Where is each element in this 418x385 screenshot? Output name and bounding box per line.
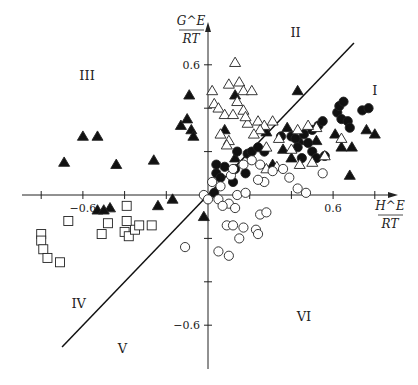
data-point <box>239 160 248 169</box>
data-point <box>293 184 302 193</box>
x-axis-label-denominator: RT <box>381 217 400 231</box>
y-tick-label: 0.6 <box>183 59 201 72</box>
data-point <box>238 105 249 114</box>
data-point <box>152 200 163 209</box>
x-axis-label-numerator: H^E <box>374 199 405 213</box>
data-point <box>228 164 237 173</box>
data-point <box>92 131 103 140</box>
data-point <box>64 217 73 226</box>
data-point <box>346 142 357 151</box>
data-point <box>292 85 303 94</box>
region-label: V <box>117 341 128 356</box>
data-point <box>318 169 327 178</box>
series-triangle-open <box>207 57 347 173</box>
data-point <box>223 79 234 88</box>
data-point <box>286 153 297 162</box>
data-point <box>291 134 300 143</box>
x-axis-arrow-icon <box>388 192 398 198</box>
data-point <box>268 167 277 176</box>
data-point <box>234 77 245 86</box>
region-labels: IIIIIIIVVVI <box>71 25 377 357</box>
data-point <box>186 124 197 133</box>
data-point <box>345 123 354 132</box>
data-point <box>344 170 355 179</box>
data-point <box>301 188 310 197</box>
series-circle-open <box>180 156 327 261</box>
scatter-chart: −0.60.60.6−0.6 IIIIIIIVVVI G^E RT H^E RT <box>0 0 418 385</box>
data-point <box>208 177 217 186</box>
region-label: VI <box>296 309 312 324</box>
x-tick-label: 0.6 <box>324 202 342 215</box>
data-point <box>97 230 106 239</box>
data-point <box>103 219 112 228</box>
data-point <box>203 195 212 204</box>
data-point <box>241 188 250 197</box>
data-point <box>318 117 327 126</box>
data-point <box>111 159 122 168</box>
data-point <box>230 57 241 66</box>
data-point <box>246 85 257 94</box>
data-point <box>216 173 225 182</box>
data-point <box>77 131 88 140</box>
data-point <box>122 217 131 226</box>
data-point <box>37 236 46 245</box>
data-point <box>55 258 64 267</box>
data-point <box>361 124 372 133</box>
y-axis-label-denominator: RT <box>182 32 201 46</box>
data-point <box>303 120 314 129</box>
data-point <box>224 251 233 260</box>
region-label: III <box>79 68 94 83</box>
data-point <box>220 162 229 171</box>
y-axis-arrow-icon <box>205 22 211 32</box>
data-point <box>364 104 373 113</box>
data-point <box>278 164 287 173</box>
region-label: IV <box>71 296 86 311</box>
data-point <box>285 173 294 182</box>
data-point <box>253 229 262 238</box>
data-point <box>336 142 347 151</box>
region-label: I <box>372 83 377 98</box>
data-point <box>231 203 240 212</box>
data-point <box>256 160 265 169</box>
data-point <box>182 114 193 123</box>
data-point <box>122 201 131 210</box>
data-point <box>43 253 52 262</box>
data-point <box>233 147 242 156</box>
data-point <box>253 175 262 184</box>
data-point <box>148 155 159 164</box>
data-point <box>241 169 250 178</box>
data-point <box>247 156 256 165</box>
data-point <box>292 124 303 133</box>
data-point <box>218 201 227 210</box>
data-point <box>233 190 242 199</box>
data-point <box>282 122 293 131</box>
y-tick-label: −0.6 <box>173 319 200 332</box>
data-point <box>239 223 248 232</box>
data-point <box>228 221 237 230</box>
data-point <box>180 242 189 251</box>
data-point <box>59 157 70 166</box>
data-point <box>303 138 312 147</box>
data-point <box>184 90 195 99</box>
data-point <box>339 97 348 106</box>
data-point <box>147 221 156 230</box>
data-point <box>235 234 244 243</box>
data-point <box>135 221 144 230</box>
region-label: II <box>290 25 300 40</box>
data-point <box>267 116 278 125</box>
data-point <box>216 182 225 191</box>
data-point <box>214 247 223 256</box>
data-point <box>39 245 48 254</box>
y-axis-label-numerator: G^E <box>177 14 206 28</box>
data-point <box>228 109 239 118</box>
data-point <box>262 208 271 217</box>
data-point <box>212 160 221 169</box>
